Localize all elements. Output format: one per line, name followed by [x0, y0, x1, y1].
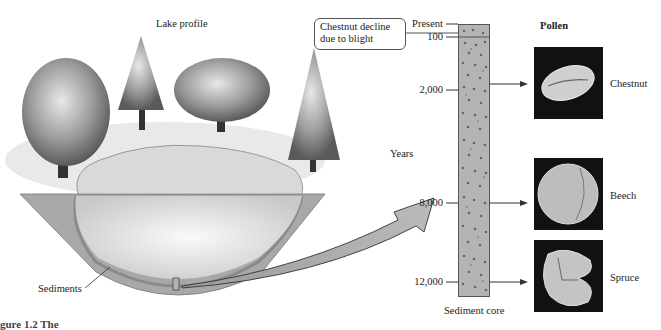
core-sample-marker [173, 278, 179, 290]
sediment-core [458, 24, 490, 297]
tick-12000: 12,000 [383, 276, 443, 287]
years-axis-label: Years [390, 148, 413, 159]
sediments-label: Sediments [38, 283, 82, 294]
arrow-spruce [490, 279, 528, 285]
tick-8000: 8,000 [383, 197, 443, 208]
pollen-header: Pollen [540, 20, 568, 31]
pollen-label-chestnut: Chestnut [610, 78, 647, 89]
core-pollen-dots [459, 25, 490, 297]
tree-conifer-right [288, 48, 340, 172]
arrow-chestnut [490, 81, 528, 87]
tick-2000: 2,000 [383, 84, 443, 95]
pollen-label-spruce: Spruce [610, 272, 639, 283]
figure-caption-fragment: gure 1.2 The [0, 318, 59, 330]
arrow-beech [490, 200, 528, 206]
tick-100: 100 [383, 31, 443, 42]
sediment-core-label: Sediment core [444, 305, 504, 316]
tree-deciduous-center [174, 58, 270, 132]
pollen-label-beech: Beech [610, 190, 636, 201]
tick-present: Present [383, 18, 443, 29]
tree-conifer-left [118, 36, 164, 130]
